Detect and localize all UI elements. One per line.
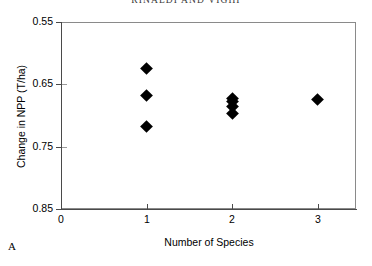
y-axis-tick-label: 0.65	[33, 78, 53, 89]
y-axis-tick	[56, 22, 62, 23]
x-axis-title: Number of Species	[61, 236, 357, 248]
x-axis-tick	[61, 204, 62, 210]
y-axis-tick-label: 0.85	[33, 203, 53, 214]
y-axis-tick-inner	[62, 84, 67, 85]
x-axis-tick-label: 0	[51, 213, 71, 225]
x-axis-tick-label: 3	[308, 213, 328, 225]
x-axis-tick-label: 1	[137, 213, 157, 225]
running-head: RINALDI AND VIGHI	[0, 0, 372, 3]
panel-label: A	[8, 240, 16, 252]
y-axis-tick-label: 0.75	[33, 141, 53, 152]
y-axis-line	[61, 22, 62, 210]
x-axis-tick	[232, 204, 233, 210]
y-axis-title: Change in NPP (T/ha)	[2, 40, 18, 170]
x-axis-tick-label: 2	[222, 213, 242, 225]
x-axis-tick	[147, 204, 148, 210]
y-axis-tick-inner	[62, 147, 67, 148]
y-axis-tick-label: 0.55	[33, 16, 53, 27]
plot-frame	[61, 22, 356, 209]
y-axis-title-text: Change in NPP (T/ha)	[15, 65, 28, 168]
x-axis-tick	[318, 204, 319, 210]
x-axis-line	[61, 209, 357, 210]
